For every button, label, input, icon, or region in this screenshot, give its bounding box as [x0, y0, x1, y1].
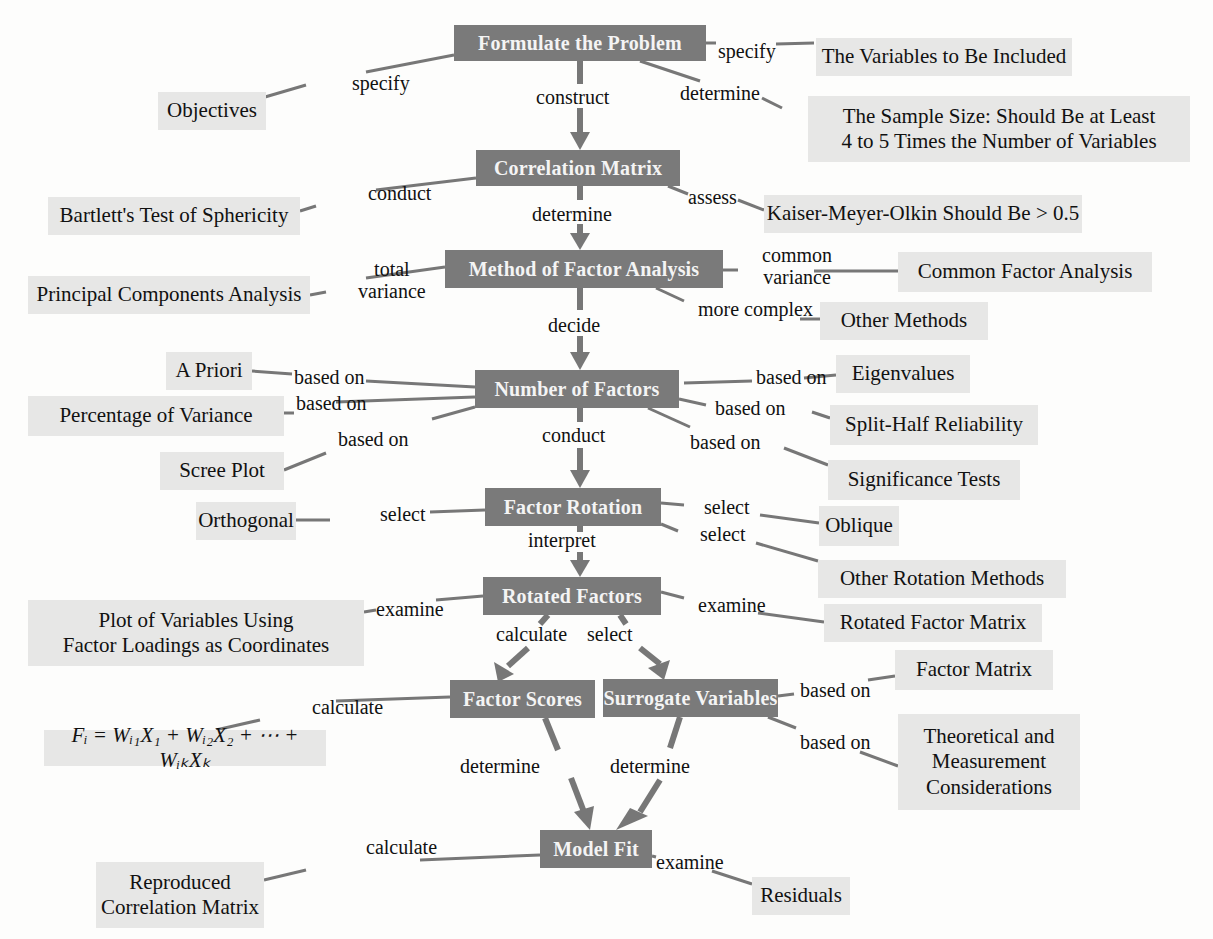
node-objectives: Objectives [158, 92, 266, 130]
step-surrogate-variables: Surrogate Variables [603, 679, 778, 717]
edge-label: assess [688, 186, 737, 208]
step-model-fit: Model Fit [540, 830, 652, 868]
node-residuals: Residuals [752, 877, 850, 915]
step-number-of-factors: Number of Factors [475, 370, 679, 408]
edge-label: construct [536, 86, 609, 108]
step-factor-rotation: Factor Rotation [485, 488, 661, 526]
edge-label: select [587, 623, 633, 645]
node-pca: Principal Components Analysis [28, 276, 310, 314]
edge-label: more complex [698, 298, 813, 320]
node-factor-matrix: Factor Matrix [895, 650, 1053, 690]
edge-label: select [700, 523, 746, 545]
node-eigenvalues: Eigenvalues [836, 355, 970, 393]
edge-label: select [704, 496, 750, 518]
node-percentage-variance: Percentage of Variance [28, 396, 284, 436]
edge-label: calculate [496, 623, 567, 645]
edge-label: based on [294, 366, 365, 388]
node-split-half: Split-Half Reliability [830, 405, 1038, 445]
step-formulate-problem: Formulate the Problem [454, 25, 706, 61]
node-plot-of-variables: Plot of Variables Using Factor Loadings … [28, 600, 364, 666]
node-kmo: Kaiser-Meyer-Olkin Should Be > 0.5 [764, 195, 1082, 233]
edge-label: calculate [366, 836, 437, 858]
edge-label: specify [352, 72, 410, 94]
node-rotated-factor-matrix: Rotated Factor Matrix [824, 604, 1042, 642]
edge-label: determine [532, 203, 612, 225]
edge-label: common variance [762, 244, 832, 288]
node-other-rotation: Other Rotation Methods [818, 560, 1066, 598]
edge-label: determine [610, 755, 690, 777]
edge-label: decide [548, 314, 600, 336]
node-oblique: Oblique [819, 506, 899, 546]
edge-label: total variance [358, 258, 426, 302]
node-other-methods: Other Methods [820, 302, 988, 340]
node-sample-size: The Sample Size: Should Be at Least 4 to… [808, 96, 1190, 162]
edge-label: conduct [542, 424, 605, 446]
node-theoretical-measurement: Theoretical and Measurement Consideratio… [898, 714, 1080, 810]
edge-label: specify [718, 40, 776, 62]
edge-label: based on [800, 679, 871, 701]
edge-label: examine [376, 598, 444, 620]
edge-label: select [380, 503, 426, 525]
edge-label: based on [715, 397, 786, 419]
step-method-of-factor-analysis: Method of Factor Analysis [445, 250, 723, 288]
edge-label: determine [680, 82, 760, 104]
edge-label: based on [800, 731, 871, 753]
node-a-priori: A Priori [166, 352, 252, 390]
step-correlation-matrix: Correlation Matrix [476, 150, 680, 186]
edge-label: calculate [312, 696, 383, 718]
node-reproduced-correlation: Reproduced Correlation Matrix [96, 862, 264, 928]
node-significance-tests: Significance Tests [828, 460, 1020, 500]
edge-label: based on [690, 431, 761, 453]
edge-label: conduct [368, 182, 431, 204]
edge-label: interpret [528, 529, 596, 551]
node-scree-plot: Scree Plot [160, 452, 284, 490]
edge-label: based on [756, 366, 827, 388]
factor-analysis-concept-map: Formulate the Problem Correlation Matrix… [0, 0, 1213, 939]
step-factor-scores: Factor Scores [450, 680, 595, 718]
node-bartlett-test: Bartlett's Test of Sphericity [48, 197, 300, 235]
node-variables-included: The Variables to Be Included [816, 38, 1072, 76]
node-common-factor-analysis: Common Factor Analysis [898, 252, 1152, 292]
edge-label: based on [338, 428, 409, 450]
edge-label: based on [296, 392, 367, 414]
node-orthogonal: Orthogonal [196, 502, 296, 540]
node-factor-score-formula: Fᵢ = Wᵢ₁X₁ + Wᵢ₂X₂ + ⋯ + WᵢₖXₖ [44, 730, 326, 766]
step-rotated-factors: Rotated Factors [483, 577, 661, 615]
edge-label: examine [656, 851, 724, 873]
edge-label: examine [698, 594, 766, 616]
edge-label: determine [460, 755, 540, 777]
